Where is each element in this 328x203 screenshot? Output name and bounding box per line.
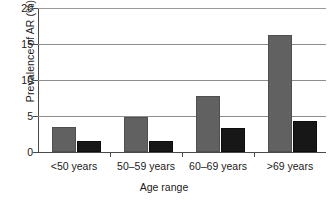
x-tick-mark (110, 152, 111, 157)
y-tick-mark (33, 8, 38, 9)
y-tick-label: 10 (13, 75, 33, 85)
gridline (38, 8, 326, 9)
y-tick-label: 0 (13, 147, 33, 157)
bar-series-1-2 (196, 96, 220, 152)
x-tick-mark (254, 152, 255, 157)
y-tick-label: 5 (13, 111, 33, 121)
y-tick-mark (33, 152, 38, 153)
plot-area (38, 8, 326, 152)
bar-series-2-0 (77, 141, 101, 152)
bar-series-1-0 (52, 127, 76, 152)
bar-series-1-3 (268, 35, 292, 152)
y-axis-tick-labels: 05101520 (10, 0, 33, 203)
x-axis-line (33, 152, 326, 153)
bar-series-2-1 (149, 141, 173, 152)
y-tick-mark (33, 116, 38, 117)
y-tick-label: 20 (13, 3, 33, 13)
y-tick-mark (33, 80, 38, 81)
bar-series-2-3 (293, 121, 317, 152)
x-tick-label: <50 years (38, 160, 110, 173)
y-tick-mark (33, 44, 38, 45)
bar-series-1-1 (124, 117, 148, 152)
x-tick-label: 50–59 years (110, 160, 182, 173)
x-tick-label: >69 years (254, 160, 326, 173)
x-axis-title: Age range (0, 181, 328, 194)
y-tick-label: 15 (13, 39, 33, 49)
bar-series-2-2 (221, 128, 245, 152)
bar-chart: Prevalence of AR (%) 05101520 <50 years5… (0, 0, 328, 203)
x-tick-mark (182, 152, 183, 157)
x-tick-label: 60–69 years (182, 160, 254, 173)
